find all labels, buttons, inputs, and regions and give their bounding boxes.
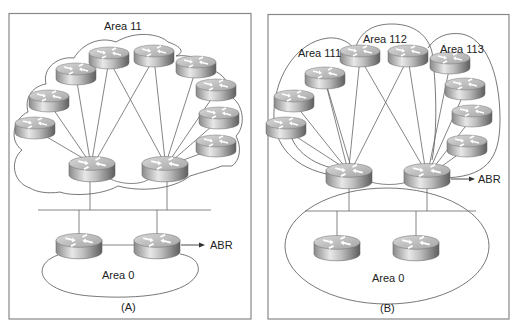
area-label-11: Area 11 xyxy=(104,20,142,32)
area-label-0-b: Area 0 xyxy=(372,272,404,284)
area-label-112: Area 112 xyxy=(363,33,407,45)
ospf-area-diagram: ABR Area 11 Area 0 (A) xyxy=(0,0,519,330)
abr-label-a: ABR xyxy=(210,239,233,251)
abr-label-b: ABR xyxy=(478,173,501,185)
area-label-0-a: Area 0 xyxy=(102,269,134,281)
panel-caption-b: (B) xyxy=(380,302,395,314)
panel-a: ABR Area 11 Area 0 (A) xyxy=(9,14,251,320)
area-label-111: Area 111 xyxy=(298,47,341,59)
area-label-113: Area 113 xyxy=(440,43,484,55)
panel-caption-a: (A) xyxy=(121,301,136,313)
panel-b: ABR Area 111 Area 112 Area 113 Area 0 (B… xyxy=(266,15,509,320)
